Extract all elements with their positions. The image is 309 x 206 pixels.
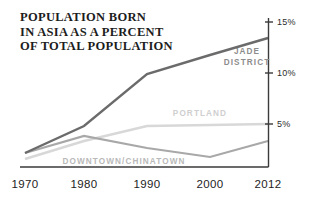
chart-plot-area: 5% 10% 15% 1970 1980 1990 2000 2012 JADE… (0, 0, 309, 206)
x-tick-label-1980: 1980 (71, 178, 98, 190)
series-label-jade-line2: DISTRICT (224, 58, 271, 67)
x-tick-label-1970: 1970 (12, 178, 39, 190)
y-tick-label-15: 15% (277, 17, 296, 27)
series-label-jade-line1: JADE (234, 47, 260, 56)
y-tick-label-5: 5% (277, 119, 290, 129)
series-label-downtown-chinatown: DOWNTOWN/CHINATOWN (62, 157, 185, 166)
y-tick-label-10: 10% (277, 68, 296, 78)
series-line-downtown-chinatown (25, 136, 268, 157)
chart-container: POPULATION BORN IN ASIA AS A PERCENT OF … (0, 0, 309, 206)
series-line-jade-district (25, 38, 268, 153)
x-tick-label-1990: 1990 (134, 178, 161, 190)
series-label-portland: PORTLAND (173, 109, 227, 118)
x-tick-label-2000: 2000 (197, 178, 224, 190)
x-tick-label-2012: 2012 (255, 178, 282, 190)
